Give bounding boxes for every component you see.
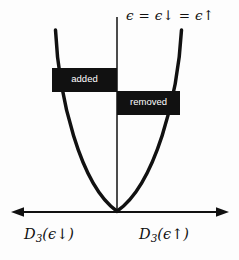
parabola-left-arm	[56, 30, 118, 211]
added-region-label: added	[52, 73, 117, 84]
parabola-right-arm	[117, 30, 182, 211]
dos-spin-down-axis-label: D3(ϵ↓)	[24, 226, 74, 244]
stoner-band-splitting-figure: ϵ = ϵ↓ = ϵ↑ added removed D3(ϵ↓) D3(ϵ↑)	[0, 0, 239, 260]
dos-axis-right-arrowhead	[216, 207, 229, 217]
fermi-level-label: ϵ = ϵ↓ = ϵ↑	[126, 7, 214, 23]
diagram-canvas	[0, 0, 239, 260]
dos-spin-up-axis-label: D3(ϵ↑)	[139, 226, 189, 244]
dos-axis-left-arrowhead	[11, 207, 24, 217]
removed-region-label: removed	[117, 96, 180, 107]
